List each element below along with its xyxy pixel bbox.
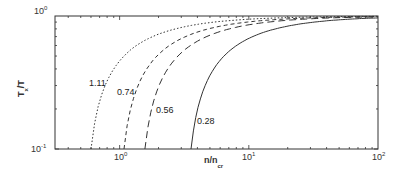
curve-0-28 bbox=[191, 18, 378, 149]
curve-label-0-74: 0.74 bbox=[117, 87, 135, 97]
curve-label-0-56: 0.56 bbox=[156, 105, 174, 115]
curve-0-56 bbox=[145, 17, 378, 149]
x-axis-label: n/ncr bbox=[204, 155, 224, 169]
x-tick-label-10: 101 bbox=[242, 151, 256, 162]
x-tick-label-1: 100 bbox=[114, 151, 128, 162]
chart: 1.11 0.74 0.56 0.28 100 10-1 100 101 102… bbox=[0, 0, 401, 182]
x-tick-label-100: 102 bbox=[372, 151, 386, 162]
y-tick-label-bottom: 10-1 bbox=[31, 143, 47, 154]
y-axis-label: Tx/T bbox=[16, 80, 29, 97]
y-tick-label-top: 100 bbox=[34, 5, 48, 16]
curve-label-0-28: 0.28 bbox=[197, 116, 215, 126]
curve-label-1-11: 1.11 bbox=[89, 78, 106, 88]
curve-1-11 bbox=[91, 16, 378, 149]
curve-0-74 bbox=[124, 17, 378, 149]
curves bbox=[91, 16, 378, 149]
